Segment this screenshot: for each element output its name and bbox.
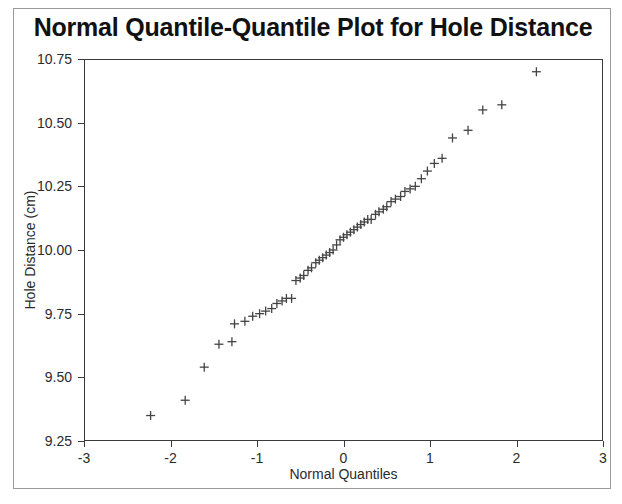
x-axis-tick-label: 0 [340,450,348,466]
x-axis-tick-mark [430,441,431,447]
y-axis-tick-mark [78,59,84,60]
x-axis-label: Normal Quantiles [84,466,603,482]
x-axis-tick-label: 2 [513,450,521,466]
y-axis-tick-mark [78,314,84,315]
y-axis-tick-mark [78,123,84,124]
x-axis-tick-mark [84,441,85,447]
y-axis-tick-mark [78,377,84,378]
plot-area [84,59,603,441]
chart-figure: Normal Quantile-Quantile Plot for Hole D… [13,8,611,489]
x-axis-tick-mark [603,441,604,447]
y-axis-tick-mark [78,186,84,187]
x-axis-tick-mark [344,441,345,447]
y-axis-tick-label: 10.50 [37,115,72,131]
y-axis-tick-label: 10.25 [37,178,72,194]
x-axis-tick-label: 1 [426,450,434,466]
y-axis-tick-label: 9.75 [45,306,72,322]
x-axis-tick-label: -2 [164,450,176,466]
x-axis-tick-mark [257,441,258,447]
x-axis-tick-label: -1 [251,450,263,466]
y-axis-tick-label: 10.00 [37,242,72,258]
x-axis-tick-mark [517,441,518,447]
y-axis-tick-label: 9.25 [45,433,72,449]
y-axis-tick-mark [78,250,84,251]
x-axis-tick-label: -3 [78,450,90,466]
x-axis-tick-mark [171,441,172,447]
y-axis-tick-label: 10.75 [37,51,72,67]
x-axis-tick-label: 3 [599,450,607,466]
y-axis-label: Hole Distance (cm) [22,190,38,309]
chart-title: Normal Quantile-Quantile Plot for Hole D… [14,13,611,42]
y-axis-tick-label: 9.50 [45,369,72,385]
